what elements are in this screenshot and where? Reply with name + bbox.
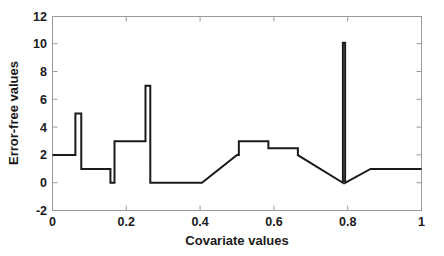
y-tick-label: 10 bbox=[33, 37, 47, 51]
x-tick-label: 0.2 bbox=[118, 215, 135, 229]
y-axis-title: Error-free values bbox=[6, 61, 21, 165]
y-tick-label: 6 bbox=[40, 93, 47, 107]
y-tick-label: 4 bbox=[40, 121, 47, 135]
plot-area-frame bbox=[53, 17, 422, 211]
x-axis-title: Covariate values bbox=[185, 233, 288, 248]
y-tick-labels: -2 0 2 4 6 8 10 12 bbox=[33, 10, 47, 218]
x-tick-label: 0.4 bbox=[191, 215, 208, 229]
x-tick-label: 1 bbox=[418, 215, 425, 229]
data-series-line bbox=[53, 43, 422, 183]
y-tick-label: 12 bbox=[33, 10, 47, 24]
y-tick-label: 8 bbox=[40, 65, 47, 79]
y-tick-label: -2 bbox=[36, 204, 47, 218]
x-tick-labels: 0 0.2 0.4 0.6 0.8 1 bbox=[49, 215, 425, 229]
x-tick-label: 0.6 bbox=[265, 215, 282, 229]
y-axis-ticks bbox=[53, 17, 422, 211]
x-tick-label: 0 bbox=[49, 215, 56, 229]
chart-canvas: 0 0.2 0.4 0.6 0.8 1 -2 0 2 4 6 8 10 12 C… bbox=[0, 0, 444, 256]
x-axis-ticks bbox=[53, 17, 422, 211]
y-tick-label: 0 bbox=[40, 176, 47, 190]
chart-figure: 0 0.2 0.4 0.6 0.8 1 -2 0 2 4 6 8 10 12 C… bbox=[0, 0, 444, 256]
y-tick-label: 2 bbox=[40, 148, 47, 162]
x-tick-label: 0.8 bbox=[339, 215, 356, 229]
